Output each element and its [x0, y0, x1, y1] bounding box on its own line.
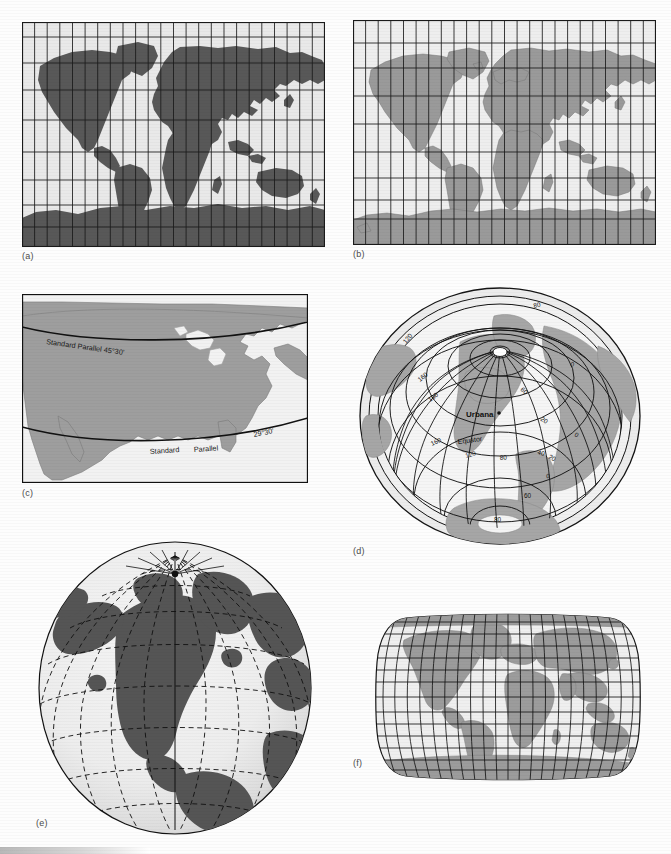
panel-c-conic: Standard Parallel 45°30' Standard Parall… [22, 294, 308, 483]
mercator-map-svg [22, 22, 325, 247]
panel-f-robinson [372, 612, 644, 782]
panel-e-orthographic [30, 538, 320, 838]
grat-label-80e: 80 [499, 453, 507, 461]
panel-d-label: (d) [353, 546, 365, 556]
urbana-marker [497, 411, 501, 415]
grat-label-60s: 60 [524, 492, 532, 499]
figure-plate: (a) [0, 0, 671, 854]
conic-map-svg: Standard Parallel 45°30' Standard Parall… [22, 294, 308, 483]
standard-parallel-29-label-part2: Parallel [194, 443, 219, 454]
orthographic-globe-svg [30, 538, 320, 838]
panel-c-label: (c) [22, 488, 33, 498]
panel-f-label: (f) [353, 758, 362, 768]
oblique-azimuthal-svg: Urbana Equator 80 120 160 180 160 120 80… [348, 286, 653, 554]
page-bottom-smudge [0, 847, 150, 854]
equal-area-map-svg [353, 20, 656, 245]
north-pole-marker [493, 348, 507, 357]
robinson-map-svg [372, 612, 644, 782]
panel-d-oblique-azimuthal: Urbana Equator 80 120 160 180 160 120 80… [348, 286, 653, 554]
panel-b-label: (b) [353, 249, 365, 259]
panel-a-mercator [22, 22, 325, 247]
grat-label-80s: 80 [494, 516, 502, 523]
urbana-label: Urbana [466, 410, 494, 419]
panel-b-equal-area [353, 20, 656, 245]
panel-a-label: (a) [22, 251, 34, 261]
panel-e-label: (e) [36, 818, 48, 828]
panel-e-north-pole [172, 571, 178, 577]
